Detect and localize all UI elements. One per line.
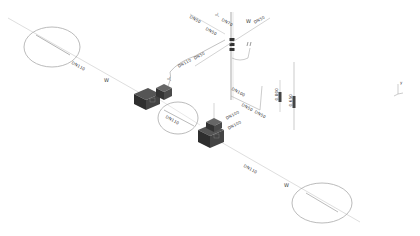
fixture-branch: [232, 48, 250, 60]
label-top-marker: JL: [214, 13, 219, 17]
detail-circle-right: [292, 183, 352, 223]
label-w-lower: W: [284, 182, 289, 188]
label-axis: y: [400, 80, 403, 85]
detail-circle-right-pipe: [306, 193, 338, 212]
riser-valve-3: [230, 48, 235, 51]
label-dim-1: 0.800: [274, 88, 279, 100]
label-vert-tag: JL: [166, 77, 171, 81]
axis-indicator: [394, 84, 403, 96]
piping-diagram-canvas: [0, 0, 420, 236]
label-w-top-right: W: [246, 18, 251, 24]
branch-pipe-curve: [166, 40, 225, 90]
detail-circle-left-pipe: [36, 35, 70, 55]
label-dim-2: 0.650: [288, 94, 293, 106]
main-pipe-left: [8, 18, 140, 93]
fixture-taps: [247, 42, 251, 46]
riser-valve-1: [230, 38, 235, 41]
label-w-left: W: [104, 77, 109, 83]
main-pipe-lower: [200, 130, 360, 222]
dim-marker-1: [279, 92, 282, 102]
dim-marker-2: [293, 96, 296, 108]
